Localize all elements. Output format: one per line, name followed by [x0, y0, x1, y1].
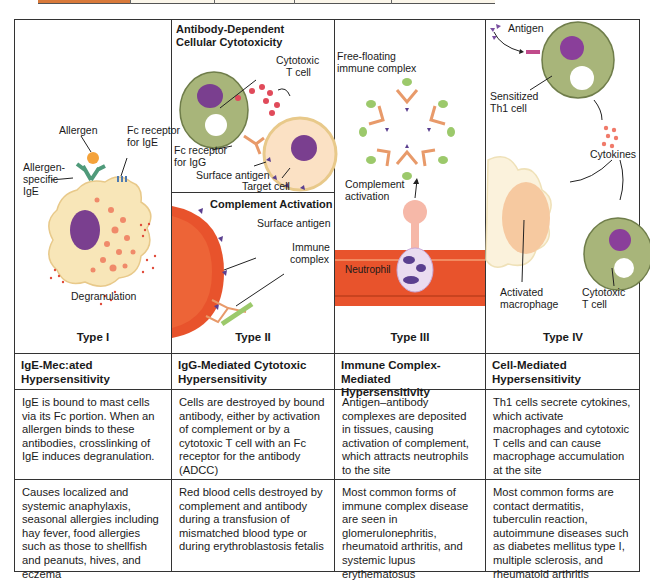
header-type4: Cell-Mediated Hypersensitivity: [486, 354, 640, 391]
label-fc-receptor-ige-2: for IgE: [127, 136, 158, 148]
header-line: IgE-Mec:ated: [21, 359, 165, 373]
label-allergen: Allergen: [59, 124, 98, 136]
complement-illustration: [172, 20, 334, 353]
mechanism-type4: Th1 cells secrete cytokines, which activ…: [486, 390, 640, 484]
label-degranulation: Degranulation: [71, 290, 136, 302]
type-label: Type I: [15, 331, 171, 345]
header-type2: IgG-Mediated Cytotoxic Hypersensitivity: [172, 354, 334, 391]
type-label: Type II: [172, 331, 334, 345]
mechanism-type2: Cells are destroyed by bound antibody, e…: [172, 390, 334, 484]
header-line: Cell-Mediated: [492, 359, 634, 373]
label-allergen-specific-3: IgE: [23, 185, 39, 197]
header-line: Hypersensitivity: [178, 373, 328, 387]
label-neutrophil: Neutrophil: [345, 264, 391, 276]
label-complement: Complement: [345, 178, 405, 190]
type-label: Type III: [335, 331, 485, 345]
strip-divider: [130, 0, 131, 4]
previous-table-strip: [38, 0, 495, 4]
label-complex: complex: [290, 253, 329, 265]
label-surface-antigen-2: Surface antigen: [257, 217, 331, 229]
type1-illustration: Allergen Fc receptor for IgE Allergen- s…: [15, 20, 171, 353]
label-cytokines: Cytokines: [590, 148, 636, 160]
label-cytotoxic: Cytotoxic: [582, 286, 625, 298]
examples-type3: Most common forms of immune complex dise…: [335, 480, 485, 587]
header-line: IgG-Mediated Cytotoxic: [178, 359, 328, 373]
label-sensitized: Sensitized: [490, 90, 538, 102]
label-allergen-specific-2: specific: [23, 173, 58, 185]
label-macrophage: macrophage: [500, 298, 558, 310]
header-type1: IgE-Mec:ated Hypersensitivity: [15, 354, 171, 391]
type-label: Type IV: [486, 331, 640, 345]
strip-divider: [294, 0, 295, 4]
examples-type4: Most common forms are contact dermatitis…: [486, 480, 640, 587]
header-line: Immune Complex-Mediated: [341, 359, 479, 386]
strip-divider: [391, 0, 392, 4]
type4-illustration: Antigen Sensitized Th1 cell Cytokines Ac…: [486, 20, 640, 353]
type2-illustration: Antibody-Dependent Cellular Cytotoxicity…: [172, 20, 334, 353]
label-antigen: Antigen: [508, 22, 544, 34]
label-th1-cell: Th1 cell: [490, 102, 527, 114]
label-allergen-specific: Allergen-: [23, 161, 65, 173]
header-line: Hypersensitivity: [492, 373, 634, 387]
label-activated: Activated: [500, 286, 543, 298]
mechanism-type1: IgE is bound to mast cells via its Fc po…: [15, 390, 171, 470]
examples-type1: Causes localized and systemic anaphylaxi…: [15, 480, 171, 587]
label-activation: activation: [345, 190, 389, 202]
hypersensitivity-table: Allergen Fc receptor for IgE Allergen- s…: [14, 19, 640, 572]
label-immune: Immune: [292, 241, 330, 253]
strip-divider: [214, 0, 215, 4]
mechanism-type3: Antigen–antibody complexes are deposited…: [335, 390, 485, 484]
header-line: Hypersensitivity: [21, 373, 165, 387]
label-t-cell: T cell: [582, 298, 607, 310]
strip-orange-cell: [38, 0, 130, 3]
examples-type2: Red blood cells destroyed by complement …: [172, 480, 334, 560]
type3-illustration: Free-floating immune complex: [335, 20, 485, 353]
